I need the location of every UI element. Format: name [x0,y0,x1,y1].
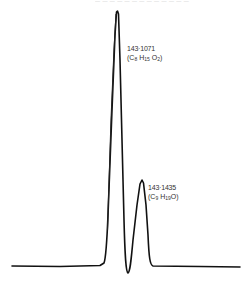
peak-label-2: 143·1435 (C9 H19O) [148,183,179,201]
peak-1-mass: 143·1071 [127,44,162,53]
peak-2-mass: 143·1435 [148,183,179,192]
peak-1-formula: (C8 H15 O2) [127,53,162,62]
mass-spectrum-trace [0,0,246,295]
peak-2-formula: (C9 H19O) [148,192,179,201]
signal-line [12,11,240,273]
peak-label-1: 143·1071 (C8 H15 O2) [127,44,162,62]
